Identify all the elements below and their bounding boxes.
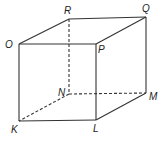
vertex-label-n: N xyxy=(58,87,66,98)
vertex-label-k: K xyxy=(11,124,19,135)
vertex-label-q: Q xyxy=(142,3,150,14)
edge-RO xyxy=(19,19,69,44)
edge-PQ xyxy=(96,17,146,44)
edge-KL xyxy=(19,120,96,121)
vertex-label-r: R xyxy=(64,5,71,16)
edge-QR xyxy=(69,17,146,19)
vertex-label-p: P xyxy=(98,44,105,55)
edge-NK-hidden xyxy=(19,94,69,121)
edge-LM xyxy=(96,93,146,120)
vertex-label-l: L xyxy=(93,123,99,134)
vertex-label-o: O xyxy=(5,39,13,50)
vertex-label-m: M xyxy=(149,91,158,102)
edge-NM-hidden xyxy=(69,93,146,94)
cube-diagram: R Q O P N M K L xyxy=(0,0,168,146)
